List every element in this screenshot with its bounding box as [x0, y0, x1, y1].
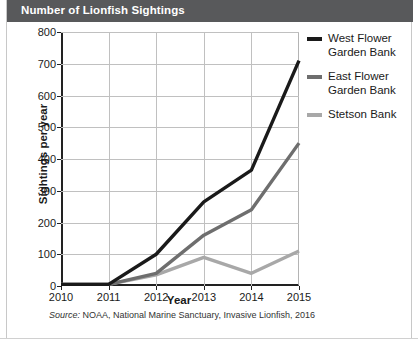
legend-color-swatch [307, 37, 322, 41]
legend-item-label: West FlowerGarden Bank [328, 32, 396, 59]
chart-plot-region: Sightings per year 010020030040050060070… [7, 22, 413, 338]
chart-legend: West FlowerGarden BankEast FlowerGarden … [307, 32, 413, 133]
y-axis-tick-label: 100 [38, 248, 56, 260]
y-axis-tick-label: 700 [38, 58, 56, 70]
x-axis-tick-mark [109, 286, 110, 290]
legend-color-swatch [307, 113, 322, 117]
legend-color-swatch [307, 75, 322, 79]
x-axis-tick-mark [251, 286, 252, 290]
y-axis-tick-label: 800 [38, 26, 56, 38]
legend-item[interactable]: East FlowerGarden Bank [307, 70, 413, 97]
source-caption: Source: NOAA, National Marine Sanctuary,… [17, 310, 347, 320]
y-axis-tick-label: 200 [38, 217, 56, 229]
x-axis-tick-mark [299, 286, 300, 290]
x-axis-tick-mark [156, 286, 157, 290]
series-line [61, 143, 299, 284]
legend-item-label: Stetson Bank [328, 108, 396, 122]
x-axis-title: Year [59, 294, 299, 306]
chart-title-bar: Number of Lionfish Sightings [7, 0, 413, 22]
source-text: NOAA, National Marine Sanctuary, Invasiv… [80, 310, 315, 320]
page-edge [0, 338, 418, 346]
y-axis-tick-label: 400 [38, 153, 56, 165]
series-line [61, 61, 299, 285]
x-axis-tick-mark [61, 286, 62, 290]
legend-item[interactable]: Stetson Bank [307, 108, 413, 122]
plot-box: 0100200300400500600700800 20102011201220… [61, 32, 299, 286]
chart-figure: Number of Lionfish Sightings Sightings p… [6, 0, 412, 338]
legend-item[interactable]: West FlowerGarden Bank [307, 32, 413, 59]
chart-title: Number of Lionfish Sightings [21, 4, 185, 16]
x-axis-tick-mark [204, 286, 205, 290]
source-label: Source: [49, 310, 80, 320]
legend-item-label: East FlowerGarden Bank [328, 70, 396, 97]
y-axis-tick-label: 300 [38, 185, 56, 197]
series-lines [61, 32, 299, 286]
y-axis-tick-label: 500 [38, 121, 56, 133]
y-axis-tick-label: 600 [38, 90, 56, 102]
